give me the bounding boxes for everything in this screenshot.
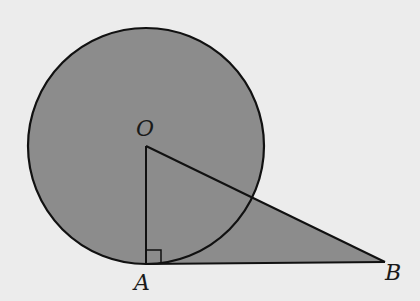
label-o: O: [136, 116, 154, 141]
geometry-diagram: O A B: [0, 0, 420, 301]
label-a: A: [132, 270, 150, 295]
label-b: B: [384, 260, 401, 285]
